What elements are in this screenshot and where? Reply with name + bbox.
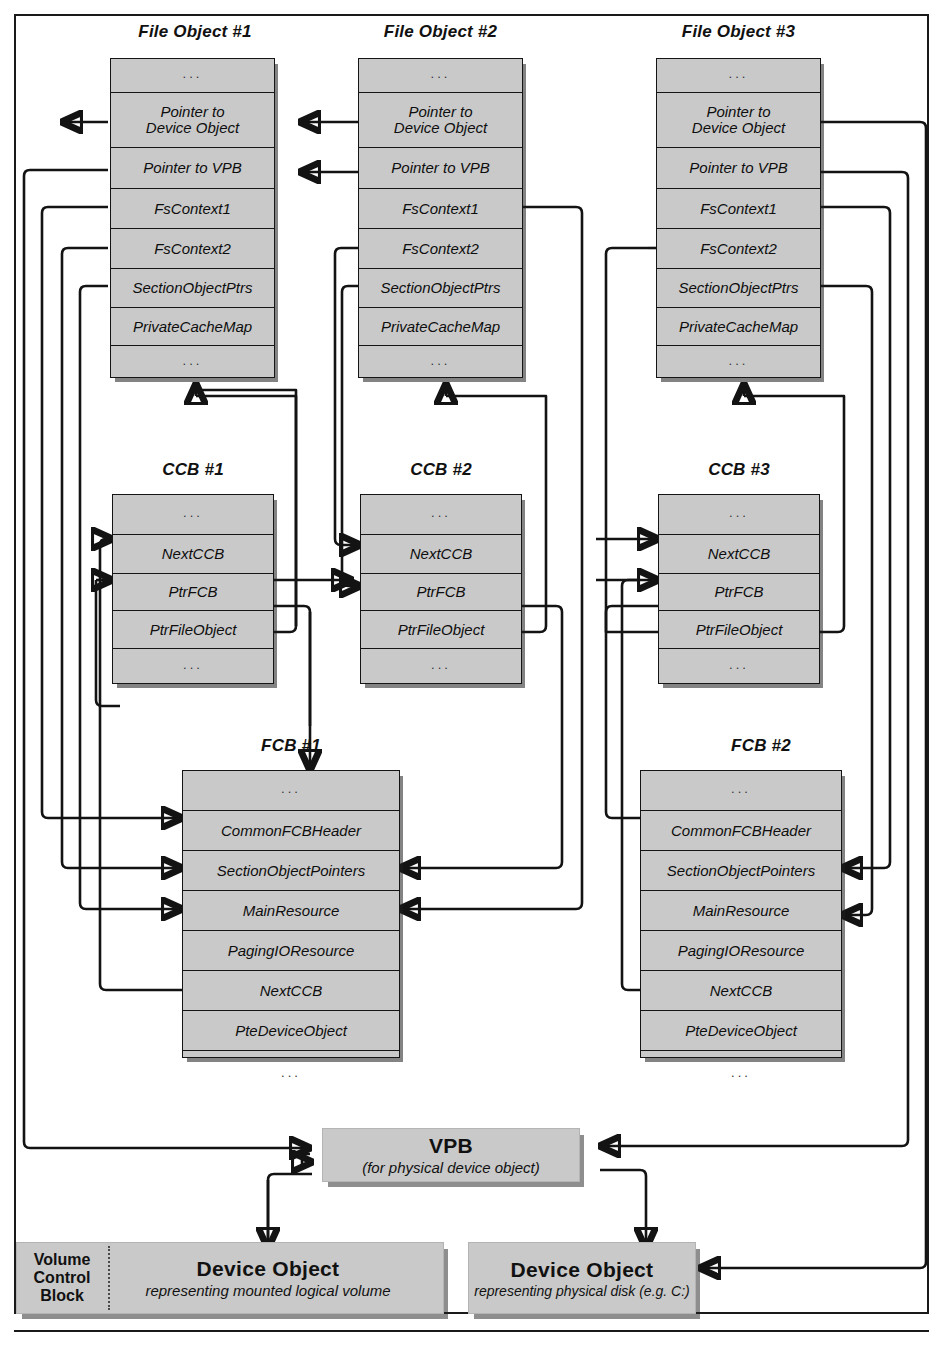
ccb3-row-4: ... (659, 649, 819, 685)
ccb2-row-3: PtrFileObject (361, 611, 521, 649)
device-object-logical-title: Device Object (197, 1257, 340, 1281)
ccb3-row-3: PtrFileObject (659, 611, 819, 649)
ccb3-row-1: NextCCB (659, 535, 819, 574)
fo1-row-0: ... (111, 59, 274, 93)
vpb-title: VPB (429, 1134, 473, 1158)
ccb1-row-2: PtrFCB (113, 574, 273, 611)
fo3-row-2: Pointer to VPB (657, 148, 820, 189)
fo2-row-7: ... (359, 346, 522, 379)
fcb-2: ... CommonFCBHeader SectionObjectPointer… (640, 770, 842, 1058)
fcb2-row-7: ... (641, 1051, 841, 1099)
device-object-physical-title: Device Object (511, 1258, 654, 1282)
ccb1-row-4: ... (113, 649, 273, 685)
fcb2-row-1: CommonFCBHeader (641, 811, 841, 851)
fcb2-row-2: SectionObjectPointers (641, 851, 841, 891)
fcb1-row-6: PteDeviceObject (183, 1011, 399, 1051)
device-object-physical-subtitle: representing physical disk (e.g. C:) (474, 1283, 690, 1299)
fo1-row-1: Pointer to Device Object (111, 93, 274, 148)
fcb-1: ... CommonFCBHeader SectionObjectPointer… (182, 770, 400, 1058)
fo2-row-5: SectionObjectPtrs (359, 269, 522, 308)
ccb-2-title: CCB #2 (360, 460, 522, 480)
fcb1-row-1: CommonFCBHeader (183, 811, 399, 851)
fo1-row-3: FsContext1 (111, 189, 274, 229)
vcb-line-1: Volume (34, 1251, 91, 1269)
fo2-row-0: ... (359, 59, 522, 93)
file-object-3: ... Pointer to Device Object Pointer to … (656, 58, 821, 378)
ccb3-row-2: PtrFCB (659, 574, 819, 611)
fo1-row-6: PrivateCacheMap (111, 308, 274, 346)
fo1-row-5: SectionObjectPtrs (111, 269, 274, 308)
fo2-row-1: Pointer to Device Object (359, 93, 522, 148)
fcb2-row-5: NextCCB (641, 971, 841, 1011)
fo3-row-7: ... (657, 346, 820, 379)
ccb2-row-1: NextCCB (361, 535, 521, 574)
ccb2-row-4: ... (361, 649, 521, 685)
fcb1-row-7: ... (183, 1051, 399, 1099)
fcb1-row-0: ... (183, 771, 399, 811)
vcb-divider (108, 1246, 110, 1310)
device-object-physical-box: Device Object representing physical disk… (468, 1242, 696, 1314)
fcb-1-title: FCB #1 (182, 736, 400, 756)
ccb-3-title: CCB #3 (658, 460, 820, 480)
fcb2-row-4: PagingIOResource (641, 931, 841, 971)
fo1-row-2: Pointer to VPB (111, 148, 274, 189)
fcb-2-title: FCB #2 (680, 736, 842, 756)
file-object-3-title: File Object #3 (656, 22, 821, 42)
ccb-2: ... NextCCB PtrFCB PtrFileObject ... (360, 494, 522, 684)
file-object-1: ... Pointer to Device Object Pointer to … (110, 58, 275, 378)
fo1-row-4: FsContext2 (111, 229, 274, 269)
fcb1-row-5: NextCCB (183, 971, 399, 1011)
volume-control-block-label: Volume Control Block (20, 1246, 104, 1310)
fo3-row-1: Pointer to Device Object (657, 93, 820, 148)
fo3-row-0: ... (657, 59, 820, 93)
fo2-row-4: FsContext2 (359, 229, 522, 269)
fcb1-row-2: SectionObjectPointers (183, 851, 399, 891)
file-object-2-title: File Object #2 (358, 22, 523, 42)
file-object-1-title: File Object #1 (110, 22, 280, 42)
vpb-subtitle: (for physical device object) (362, 1159, 540, 1176)
fo2-row-6: PrivateCacheMap (359, 308, 522, 346)
ccb-1-title: CCB #1 (112, 460, 274, 480)
ccb1-row-1: NextCCB (113, 535, 273, 574)
diagram-canvas: File Object #1 ... Pointer to Device Obj… (0, 0, 943, 1368)
vcb-line-2: Control (34, 1269, 91, 1287)
fcb2-row-0: ... (641, 771, 841, 811)
device-object-logical-subtitle: representing mounted logical volume (145, 1282, 390, 1299)
ccb2-row-2: PtrFCB (361, 574, 521, 611)
ccb-1: ... NextCCB PtrFCB PtrFileObject ... (112, 494, 274, 684)
vpb-box: VPB (for physical device object) (322, 1128, 580, 1182)
fo1-row-7: ... (111, 346, 274, 379)
file-object-2: ... Pointer to Device Object Pointer to … (358, 58, 523, 378)
page-bottom-rule (14, 1330, 929, 1332)
fo3-row-3: FsContext1 (657, 189, 820, 229)
vcb-line-3: Block (40, 1287, 84, 1305)
fcb1-row-3: MainResource (183, 891, 399, 931)
fo2-row-2: Pointer to VPB (359, 148, 522, 189)
fo2-row-3: FsContext1 (359, 189, 522, 229)
fcb2-row-3: MainResource (641, 891, 841, 931)
fo3-row-5: SectionObjectPtrs (657, 269, 820, 308)
ccb2-row-0: ... (361, 495, 521, 535)
fo3-row-6: PrivateCacheMap (657, 308, 820, 346)
ccb1-row-0: ... (113, 495, 273, 535)
fcb2-row-6: PteDeviceObject (641, 1011, 841, 1051)
fo3-row-4: FsContext2 (657, 229, 820, 269)
ccb1-row-3: PtrFileObject (113, 611, 273, 649)
ccb-3: ... NextCCB PtrFCB PtrFileObject ... (658, 494, 820, 684)
ccb3-row-0: ... (659, 495, 819, 535)
fcb1-row-4: PagingIOResource (183, 931, 399, 971)
